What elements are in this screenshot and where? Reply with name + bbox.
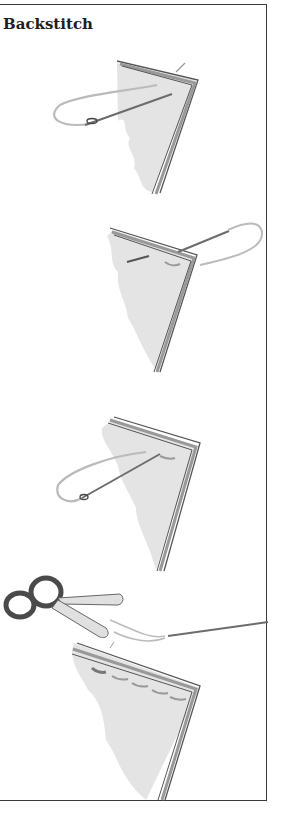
step-4-illustration bbox=[0, 575, 282, 805]
step-3-illustration bbox=[0, 410, 282, 590]
step-1-illustration bbox=[0, 55, 282, 205]
panel-title: Backstitch bbox=[3, 15, 93, 33]
step-2-illustration bbox=[0, 210, 282, 380]
scissors-icon bbox=[6, 578, 123, 638]
